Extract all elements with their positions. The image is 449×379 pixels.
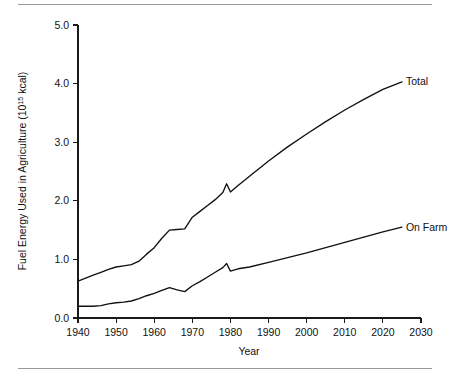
line-chart: 0.01.02.03.04.05.0 194019501960197019801… [0, 0, 449, 379]
y-tick-label: 0.0 [54, 312, 69, 324]
y-axis-tick-labels: 0.01.02.03.04.05.0 [54, 19, 69, 324]
x-axis-tick-labels: 1940195019601970198019902000201020202030 [66, 326, 433, 338]
x-axis-ticks [78, 318, 421, 323]
x-tick-label: 1990 [257, 326, 281, 338]
x-tick-label: 1960 [143, 326, 167, 338]
y-tick-label: 3.0 [54, 136, 69, 148]
x-axis-title: Year [238, 345, 260, 357]
x-tick-label: 1980 [219, 326, 243, 338]
y-tick-label: 4.0 [54, 77, 69, 89]
series-label-total: Total [406, 75, 428, 87]
x-tick-label: 1940 [66, 326, 90, 338]
x-tick-label: 2000 [295, 326, 319, 338]
y-tick-label: 5.0 [54, 19, 69, 31]
y-tick-label: 1.0 [54, 253, 69, 265]
series-line-total [78, 82, 402, 281]
y-tick-label: 2.0 [54, 194, 69, 206]
x-tick-label: 2030 [409, 326, 433, 338]
y-axis-ticks [73, 25, 78, 318]
x-tick-label: 1950 [104, 326, 128, 338]
axis-spines [78, 25, 421, 318]
series-line-on-farm [78, 227, 402, 306]
x-tick-label: 1970 [181, 326, 205, 338]
figure-container: 0.01.02.03.04.05.0 194019501960197019801… [0, 0, 449, 379]
x-tick-label: 2020 [371, 326, 395, 338]
y-axis-title: Fuel Energy Used in Agriculture (1015 kc… [16, 72, 28, 271]
x-tick-label: 2010 [333, 326, 357, 338]
series-label-on-farm: On Farm [406, 221, 448, 233]
